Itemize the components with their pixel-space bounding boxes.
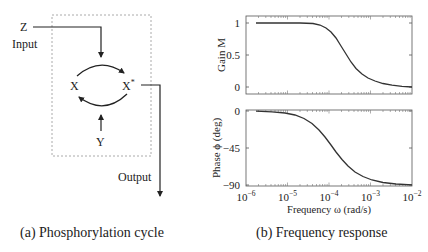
phase-curve xyxy=(256,111,412,185)
x-tick-1e-6: 10−6 xyxy=(237,189,256,203)
phosphorylation-arrow xyxy=(77,65,124,76)
x-axis-label: Frequency ω (rad/s) xyxy=(287,204,371,216)
phase-tick-0: 0 xyxy=(235,105,241,117)
phase-ylabel: Phase ϕ (deg) xyxy=(210,118,223,178)
input-arrow xyxy=(33,27,101,57)
gain-axes-frame xyxy=(246,16,412,94)
label-y: Y xyxy=(96,135,105,149)
label-x: X xyxy=(70,79,79,93)
phase-plot: 0 −45 −90 Phase ϕ (deg) 10−6 10−5 10−4 1… xyxy=(210,105,422,216)
phosphorylation-diagram: Z Input X X* Y Output xyxy=(12,15,160,196)
label-x-star: X* xyxy=(122,78,135,93)
label-output: Output xyxy=(118,170,152,184)
caption-a: (a) Phosphorylation cycle xyxy=(20,225,164,241)
caption-b: (b) Frequency response xyxy=(256,225,387,241)
phase-tick-45: −45 xyxy=(223,142,241,154)
phase-tick-90: −90 xyxy=(223,179,241,191)
phase-axes-frame xyxy=(246,110,412,186)
gain-tick-1: 1 xyxy=(235,17,241,29)
x-tick-1e-5: 10−5 xyxy=(278,189,297,203)
gain-tick-0-5: 0.5 xyxy=(226,49,240,61)
gain-curve xyxy=(256,23,412,87)
label-z: Z xyxy=(20,20,27,34)
x-tick-1e-2: 10−2 xyxy=(403,189,422,203)
figure-canvas: Z Input X X* Y Output xyxy=(0,0,428,252)
label-input: Input xyxy=(12,37,38,51)
gain-plot: 1 0.5 0 Gain M xyxy=(215,16,412,94)
dephosphorylation-arrow xyxy=(79,94,127,106)
gain-ylabel: Gain M xyxy=(215,38,227,72)
x-tick-1e-3: 10−3 xyxy=(361,189,380,203)
gain-tick-0: 0 xyxy=(235,81,241,93)
x-tick-1e-4: 10−4 xyxy=(320,189,339,203)
